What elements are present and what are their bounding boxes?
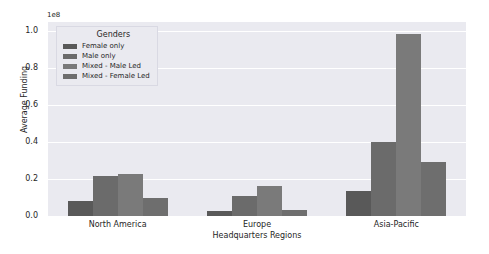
bar [421, 162, 446, 216]
y-axis-offset-text: 1e8 [47, 11, 60, 19]
legend-entries: Female onlyMale onlyMixed - Male LedMixe… [63, 41, 150, 81]
y-tick-label: 0.4 [0, 138, 38, 146]
legend-swatch-icon [63, 44, 77, 49]
legend-swatch-icon [63, 54, 77, 59]
legend-item-label: Mixed - Male Led [82, 62, 141, 70]
y-tick-label: 1.0 [0, 27, 38, 35]
y-tick-label: 0.2 [0, 175, 38, 183]
bar [232, 196, 257, 216]
bar [207, 211, 232, 216]
legend-item: Female only [63, 41, 150, 51]
legend-swatch-icon [63, 64, 77, 69]
gridline [48, 216, 466, 217]
bar [346, 191, 371, 216]
legend-item: Mixed - Female Led [63, 71, 150, 81]
legend-item-label: Mixed - Female Led [82, 72, 150, 80]
legend-item-label: Male only [82, 52, 116, 60]
bar [371, 142, 396, 216]
bar [118, 174, 143, 216]
y-tick-label: 0.6 [0, 101, 38, 109]
legend-title: Genders [63, 30, 150, 39]
bar [282, 210, 307, 216]
x-axis-label: Headquarters Regions [48, 231, 466, 240]
y-tick-label: 0.0 [0, 212, 38, 220]
legend-item-label: Female only [82, 42, 124, 50]
y-tick-label: 0.8 [0, 64, 38, 72]
legend-swatch-icon [63, 74, 77, 79]
x-tick-label: North America [58, 220, 178, 229]
bar [257, 186, 282, 216]
bar [396, 34, 421, 216]
legend-item: Male only [63, 51, 150, 61]
legend-item: Mixed - Male Led [63, 61, 150, 71]
bar [68, 201, 93, 216]
x-tick-label: Asia-Pacific [336, 220, 456, 229]
legend: Genders Female onlyMale onlyMixed - Male… [56, 26, 158, 86]
bar-chart-figure: 1e8 Average Funding 0.00.20.40.60.81.0 N… [0, 0, 489, 254]
bar [93, 176, 118, 216]
bar [143, 198, 168, 216]
x-tick-label: Europe [197, 220, 317, 229]
